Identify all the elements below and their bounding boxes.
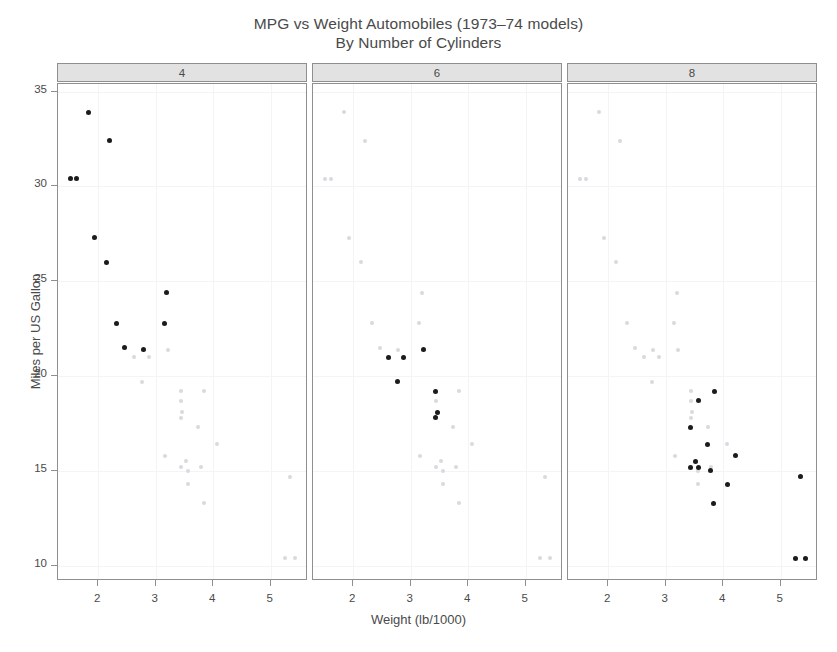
gridline-vertical	[411, 84, 412, 579]
data-point	[162, 321, 167, 326]
gridline-vertical	[468, 84, 469, 579]
ghost-data-point	[618, 139, 622, 143]
data-point	[74, 176, 79, 181]
data-point	[122, 345, 127, 350]
ghost-data-point	[179, 399, 183, 403]
ghost-data-point	[347, 236, 351, 240]
gridline-horizontal	[568, 92, 816, 93]
x-axis-tick	[722, 580, 723, 586]
ghost-data-point	[689, 416, 693, 420]
ghost-data-point	[184, 459, 188, 463]
ghost-data-point	[420, 291, 424, 295]
panel-8	[567, 83, 817, 580]
ghost-data-point	[288, 475, 292, 479]
ghost-data-point	[186, 469, 190, 473]
data-point	[141, 347, 146, 352]
ghost-data-point	[642, 355, 646, 359]
gridline-vertical	[666, 84, 667, 579]
data-point	[421, 347, 426, 352]
ghost-data-point	[584, 177, 588, 181]
gridline-horizontal	[568, 186, 816, 187]
x-axis-tick	[270, 580, 271, 586]
gridline-horizontal	[568, 376, 816, 377]
gridline-vertical	[98, 84, 99, 579]
data-point	[68, 176, 73, 181]
ghost-data-point	[625, 321, 629, 325]
data-point	[708, 468, 713, 473]
gridline-vertical	[723, 84, 724, 579]
data-point	[433, 415, 438, 420]
x-axis-tick-label: 5	[768, 592, 792, 604]
gridline-vertical	[608, 84, 609, 579]
ghost-data-point	[543, 475, 547, 479]
chart-subtitle: By Number of Cylinders	[0, 33, 837, 52]
gridline-vertical	[156, 84, 157, 579]
ghost-data-point	[396, 348, 400, 352]
ghost-data-point	[196, 425, 200, 429]
scatter-plot-figure: MPG vs Weight Automobiles (1973–74 model…	[0, 0, 837, 652]
x-axis-tick-label: 3	[143, 592, 167, 604]
panel-plot-area	[313, 84, 561, 579]
gridline-vertical	[213, 84, 214, 579]
gridline-horizontal	[313, 186, 561, 187]
ghost-data-point	[418, 454, 422, 458]
x-axis-tick	[467, 580, 468, 586]
ghost-data-point	[690, 410, 694, 414]
x-axis-tick	[155, 580, 156, 586]
data-point	[696, 398, 701, 403]
y-axis-tick-label: 35	[21, 83, 47, 95]
ghost-data-point	[323, 177, 327, 181]
chart-title-block: MPG vs Weight Automobiles (1973–74 model…	[0, 14, 837, 52]
gridline-horizontal	[313, 281, 561, 282]
x-axis-tick	[780, 580, 781, 586]
x-axis-tick-label: 2	[85, 592, 109, 604]
x-axis-tick-label: 4	[200, 592, 224, 604]
ghost-data-point	[672, 321, 676, 325]
gridline-horizontal	[58, 376, 306, 377]
ghost-data-point	[548, 556, 552, 560]
ghost-data-point	[689, 399, 693, 403]
ghost-data-point	[725, 442, 729, 446]
gridline-horizontal	[313, 92, 561, 93]
panel-strip-label: 4	[179, 67, 185, 79]
x-axis-tick	[607, 580, 608, 586]
data-point	[688, 425, 693, 430]
ghost-data-point	[140, 380, 144, 384]
data-point	[705, 442, 710, 447]
ghost-data-point	[633, 346, 637, 350]
chart-title: MPG vs Weight Automobiles (1973–74 model…	[0, 14, 837, 33]
ghost-data-point	[614, 260, 618, 264]
data-point	[92, 235, 97, 240]
ghost-data-point	[706, 425, 710, 429]
ghost-data-point	[359, 260, 363, 264]
ghost-data-point	[457, 389, 461, 393]
data-point	[688, 465, 693, 470]
gridline-vertical	[271, 84, 272, 579]
y-axis-tick-label: 30	[21, 177, 47, 189]
gridline-horizontal	[568, 281, 816, 282]
x-axis-tick-label: 3	[398, 592, 422, 604]
ghost-data-point	[363, 139, 367, 143]
x-axis-tick	[97, 580, 98, 586]
gridline-horizontal	[58, 281, 306, 282]
x-axis-label: Weight (lb/1000)	[0, 612, 837, 627]
panel-strip-4: 4	[57, 63, 307, 82]
gridline-horizontal	[313, 566, 561, 567]
data-point	[803, 556, 808, 561]
panel-plot-area	[568, 84, 816, 579]
ghost-data-point	[378, 346, 382, 350]
x-axis-tick	[525, 580, 526, 586]
data-point	[798, 474, 803, 479]
panel-plot-area	[58, 84, 306, 579]
gridline-horizontal	[58, 566, 306, 567]
ghost-data-point	[166, 348, 170, 352]
ghost-data-point	[689, 389, 693, 393]
gridline-horizontal	[568, 471, 816, 472]
x-axis-tick-label: 4	[455, 592, 479, 604]
x-axis-tick-label: 4	[710, 592, 734, 604]
ghost-data-point	[470, 442, 474, 446]
data-point	[386, 355, 391, 360]
ghost-data-point	[417, 321, 421, 325]
panel-strip-6: 6	[312, 63, 562, 82]
ghost-data-point	[163, 454, 167, 458]
